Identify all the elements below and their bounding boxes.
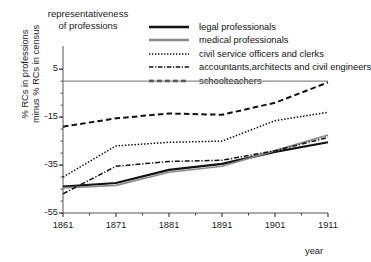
y-axis-label: % RCs in professions minus % RCs in cens… xyxy=(20,25,42,123)
series-line-0 xyxy=(63,142,328,186)
x-tick-label: 1911 xyxy=(306,220,350,230)
y-axis-label-wrapper: % RCs in professions minus % RCs in cens… xyxy=(17,0,45,149)
series-line-4 xyxy=(63,82,328,126)
y-tick-label: -35 xyxy=(20,159,58,169)
y-tick-label: 5 xyxy=(20,63,58,73)
x-tick-label: 1901 xyxy=(253,220,297,230)
x-tick-label: 1861 xyxy=(41,220,85,230)
x-tick-label: 1891 xyxy=(200,220,244,230)
y-tick-label: -55 xyxy=(20,207,58,217)
data-series-group xyxy=(63,82,328,193)
axes xyxy=(59,46,328,217)
x-tick-label: 1871 xyxy=(94,220,138,230)
y-tick-label: -15 xyxy=(20,111,58,121)
x-axis-label: year xyxy=(305,246,323,256)
x-tick-label: 1881 xyxy=(147,220,191,230)
